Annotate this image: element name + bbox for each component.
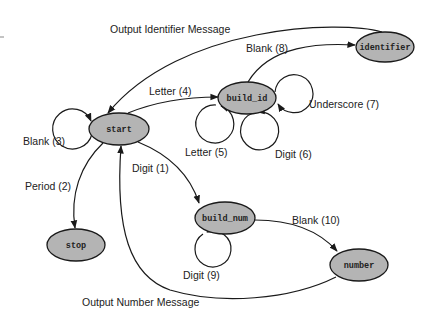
node-label-stop: stop bbox=[66, 241, 86, 251]
edge-period-2 bbox=[74, 143, 103, 228]
label-period-2: Period (2) bbox=[25, 180, 71, 192]
label-output-number: Output Number Message bbox=[82, 296, 199, 308]
edge-letter-4 bbox=[128, 97, 218, 113]
label-letter-4: Letter (4) bbox=[149, 85, 192, 97]
node-label-number: number bbox=[344, 261, 375, 271]
edge-digit-6 bbox=[241, 112, 279, 150]
node-build-id: build_id bbox=[218, 82, 276, 114]
label-digit-9: Digit (9) bbox=[183, 269, 220, 281]
node-stop: stop bbox=[47, 229, 105, 261]
label-digit-1: Digit (1) bbox=[132, 162, 169, 174]
node-label-start: start bbox=[106, 125, 132, 135]
node-number: number bbox=[330, 249, 388, 281]
state-diagram: start build_id identifier stop build_num… bbox=[0, 0, 434, 324]
label-blank-10: Blank (10) bbox=[292, 214, 340, 226]
label-blank-3: Blank (3) bbox=[23, 135, 65, 147]
label-blank-8: Blank (8) bbox=[246, 42, 288, 54]
node-identifier: identifier bbox=[356, 32, 414, 62]
label-digit-6: Digit (6) bbox=[275, 148, 312, 160]
node-label-identifier: identifier bbox=[359, 43, 410, 53]
edge-digit-9 bbox=[195, 231, 231, 267]
node-label-build-id: build_id bbox=[227, 94, 268, 104]
edge-underscore-7 bbox=[275, 75, 313, 113]
node-label-build-num: build_num bbox=[202, 214, 248, 224]
label-letter-5: Letter (5) bbox=[185, 146, 228, 158]
node-build-num: build_num bbox=[195, 202, 255, 234]
label-underscore-7: Underscore (7) bbox=[309, 98, 379, 110]
node-start: start bbox=[89, 113, 149, 145]
label-output-identifier: Output Identifier Message bbox=[110, 23, 230, 35]
